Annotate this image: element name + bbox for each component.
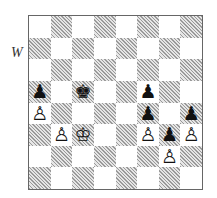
square-b2 — [51, 146, 73, 168]
square-g8 — [159, 16, 181, 38]
square-e5 — [116, 81, 138, 103]
square-h2 — [180, 146, 202, 168]
chess-board: ♟♚♟♙♟♟♙♔♙♟♙♙ — [28, 15, 203, 190]
square-b5 — [51, 81, 73, 103]
square-e7 — [116, 38, 138, 60]
square-e2 — [116, 146, 138, 168]
side-to-move-label: W — [11, 45, 23, 61]
square-d5 — [94, 81, 116, 103]
square-f8 — [137, 16, 159, 38]
square-d3 — [94, 124, 116, 146]
square-e1 — [116, 167, 138, 189]
square-d2 — [94, 146, 116, 168]
square-e4 — [116, 103, 138, 125]
square-a1 — [29, 167, 51, 189]
square-c5: ♚ — [72, 81, 94, 103]
square-d8 — [94, 16, 116, 38]
square-c8 — [72, 16, 94, 38]
square-e6 — [116, 59, 138, 81]
square-b7 — [51, 38, 73, 60]
black-pawn-icon: ♟ — [139, 82, 156, 101]
square-a3 — [29, 124, 51, 146]
square-b1 — [51, 167, 73, 189]
square-g5 — [159, 81, 181, 103]
square-g1 — [159, 167, 181, 189]
square-f2 — [137, 146, 159, 168]
square-a2 — [29, 146, 51, 168]
black-king-icon: ♚ — [75, 82, 92, 101]
square-d4 — [94, 103, 116, 125]
square-h4: ♟ — [180, 103, 202, 125]
square-f1 — [137, 167, 159, 189]
square-a6 — [29, 59, 51, 81]
square-b8 — [51, 16, 73, 38]
square-c3: ♔ — [72, 124, 94, 146]
square-g3: ♟ — [159, 124, 181, 146]
square-f6 — [137, 59, 159, 81]
white-pawn-icon: ♙ — [183, 125, 200, 144]
square-c6 — [72, 59, 94, 81]
square-a8 — [29, 16, 51, 38]
square-d7 — [94, 38, 116, 60]
square-a4: ♙ — [29, 103, 51, 125]
square-d1 — [94, 167, 116, 189]
square-b6 — [51, 59, 73, 81]
square-a5: ♟ — [29, 81, 51, 103]
square-b4 — [51, 103, 73, 125]
square-h1 — [180, 167, 202, 189]
square-g4 — [159, 103, 181, 125]
square-d6 — [94, 59, 116, 81]
square-g6 — [159, 59, 181, 81]
black-pawn-icon: ♟ — [183, 104, 200, 123]
square-h8 — [180, 16, 202, 38]
square-h7 — [180, 38, 202, 60]
white-king-icon: ♔ — [75, 125, 92, 144]
black-pawn-icon: ♟ — [31, 82, 48, 101]
white-pawn-icon: ♙ — [161, 147, 178, 166]
square-h5 — [180, 81, 202, 103]
square-h3: ♙ — [180, 124, 202, 146]
white-pawn-icon: ♙ — [31, 104, 48, 123]
square-f5: ♟ — [137, 81, 159, 103]
square-f7 — [137, 38, 159, 60]
square-f4: ♟ — [137, 103, 159, 125]
square-g2: ♙ — [159, 146, 181, 168]
black-pawn-icon: ♟ — [139, 104, 156, 123]
square-c4 — [72, 103, 94, 125]
white-pawn-icon: ♙ — [53, 125, 70, 144]
square-b3: ♙ — [51, 124, 73, 146]
square-c2 — [72, 146, 94, 168]
square-c1 — [72, 167, 94, 189]
white-pawn-icon: ♙ — [139, 125, 156, 144]
black-pawn-icon: ♟ — [161, 125, 178, 144]
square-f3: ♙ — [137, 124, 159, 146]
square-g7 — [159, 38, 181, 60]
square-a7 — [29, 38, 51, 60]
square-e8 — [116, 16, 138, 38]
square-c7 — [72, 38, 94, 60]
square-e3 — [116, 124, 138, 146]
square-h6 — [180, 59, 202, 81]
